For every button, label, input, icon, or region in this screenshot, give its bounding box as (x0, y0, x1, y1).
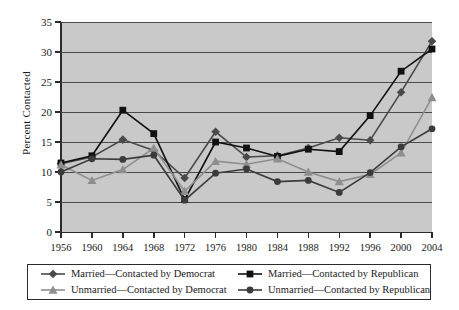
data-point-marker (150, 130, 157, 137)
x-tick-label: 1984 (267, 243, 288, 254)
x-tick-label: 1968 (143, 243, 164, 254)
x-tick-label: 1980 (236, 243, 257, 254)
data-point-marker (119, 156, 126, 163)
x-tick-label: 1972 (174, 243, 195, 254)
y-tick-label: 0 (47, 227, 53, 238)
data-point-marker (429, 46, 436, 53)
x-tick (215, 232, 217, 238)
data-point-marker (305, 177, 312, 184)
data-series (58, 46, 436, 203)
y-tick-label: 5 (47, 197, 53, 208)
legend-square-icon (237, 268, 263, 280)
series-line (61, 98, 432, 192)
x-tick-label: 1956 (51, 243, 72, 254)
legend-diamond-icon (40, 268, 66, 280)
legend-triangle-icon (40, 284, 66, 296)
legend-item-label: Unmarried—Contacted by Democrat (71, 285, 227, 296)
x-tick-label: 1988 (298, 243, 319, 254)
data-series-layer (61, 22, 432, 232)
x-tick (91, 232, 93, 238)
y-tick-label: 15 (41, 137, 52, 148)
data-point-marker (397, 88, 406, 97)
chart-legend: Married—Contacted by DemocratMarried—Con… (27, 264, 431, 300)
data-point-marker (49, 270, 58, 279)
y-tick-label: 35 (41, 17, 52, 28)
x-tick (339, 232, 341, 238)
data-point-marker (366, 136, 375, 145)
x-tick (184, 232, 186, 238)
x-tick (308, 232, 310, 238)
data-point-marker (336, 148, 343, 155)
data-point-marker (247, 287, 254, 294)
data-point-marker (212, 170, 219, 177)
data-point-marker (150, 152, 157, 159)
data-point-marker (247, 271, 254, 278)
data-point-marker (367, 169, 374, 176)
y-tick-label: 25 (41, 77, 52, 88)
data-point-marker (243, 166, 250, 173)
legend-item[interactable]: Unmarried—Contacted by Democrat (32, 282, 229, 298)
data-point-marker (274, 178, 281, 185)
x-tick-label: 1996 (360, 243, 381, 254)
legend-circle-icon (237, 284, 263, 296)
data-point-marker (118, 165, 127, 173)
plot-area: 05101520253035 1956196019641968197219761… (61, 22, 432, 232)
x-tick (246, 232, 248, 238)
x-tick-label: 1976 (205, 243, 226, 254)
data-point-marker (243, 145, 250, 152)
data-point-marker (119, 135, 128, 144)
data-point-marker (212, 139, 219, 146)
x-tick-label: 1960 (81, 243, 102, 254)
data-point-marker (398, 143, 405, 150)
x-tick (400, 232, 402, 238)
legend-item[interactable]: Married—Contacted by Democrat (32, 266, 229, 282)
x-tick (122, 232, 124, 238)
data-point-marker (304, 168, 313, 176)
x-tick-label: 2004 (422, 243, 443, 254)
x-tick-label: 2000 (391, 243, 412, 254)
legend-item[interactable]: Married—Contacted by Republican (229, 266, 426, 282)
x-tick (431, 232, 433, 238)
y-tick-label: 20 (41, 107, 52, 118)
legend-item[interactable]: Unmarried—Contacted by Republican (229, 282, 426, 298)
data-point-marker (429, 125, 436, 132)
y-tick-label: 30 (41, 47, 52, 58)
x-tick (369, 232, 371, 238)
data-point-marker (149, 144, 158, 152)
y-axis-title: Percent Contacted (20, 38, 32, 188)
y-tick-label: 10 (41, 167, 52, 178)
series-line (61, 49, 432, 200)
data-point-marker (305, 146, 312, 153)
x-tick-label: 1964 (112, 243, 133, 254)
data-point-marker (428, 37, 437, 46)
x-tick (277, 232, 279, 238)
data-point-marker (428, 93, 437, 101)
x-tick-label: 1992 (329, 243, 350, 254)
data-point-marker (181, 197, 188, 204)
legend-item-label: Married—Contacted by Democrat (71, 269, 215, 280)
data-point-marker (367, 112, 374, 119)
x-tick (153, 232, 155, 238)
data-point-marker (336, 189, 343, 196)
data-point-marker (335, 134, 344, 143)
legend-item-label: Married—Contacted by Republican (268, 269, 418, 280)
data-point-marker (398, 68, 405, 75)
legend-item-label: Unmarried—Contacted by Republican (268, 285, 430, 296)
x-tick (60, 232, 62, 238)
data-point-marker (89, 155, 96, 162)
chart-figure: Percent Contacted 05101520253035 1956196… (0, 0, 459, 310)
data-point-marker (119, 107, 126, 114)
data-point-marker (58, 169, 65, 176)
